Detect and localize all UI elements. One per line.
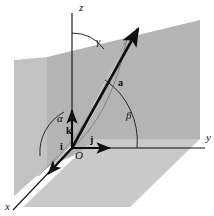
z-axis-label: z [78,1,84,13]
unit-vector-j-label: j [89,134,93,145]
origin-label: O [75,149,83,161]
vector-direction-angles-figure: z y x O γ β α a k j i [0,0,214,216]
gamma-label: γ [96,35,101,47]
y-axis-label: y [205,131,211,143]
figure-canvas: z y x O γ β α a k j i [0,0,214,216]
xz-plane-left [14,57,47,196]
unit-vector-i-label: i [60,141,63,152]
vector-a-label: a [118,77,123,88]
beta-label: β [125,109,132,121]
x-axis-label: x [4,200,10,212]
unit-vector-k-label: k [66,125,72,136]
alpha-label: α [57,112,63,124]
